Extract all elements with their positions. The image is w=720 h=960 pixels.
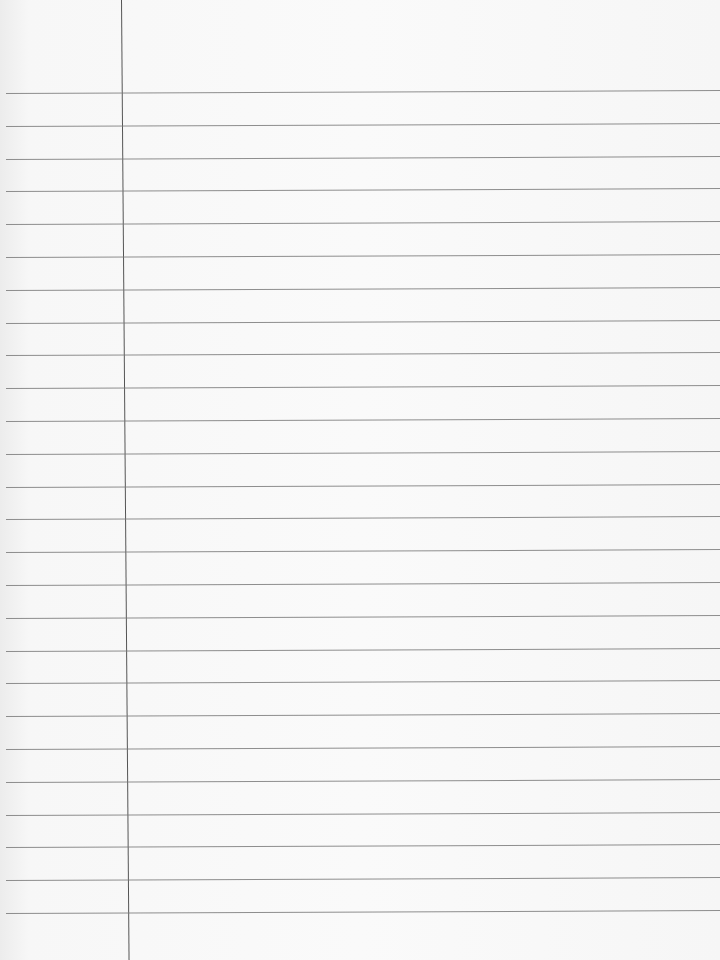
ruled-line bbox=[6, 582, 720, 586]
ruled-line bbox=[6, 156, 720, 160]
ruled-line bbox=[6, 287, 720, 291]
ruled-line bbox=[6, 188, 720, 192]
margin-line bbox=[121, 0, 130, 960]
ruled-line bbox=[6, 779, 720, 783]
ruled-line bbox=[6, 910, 720, 914]
ruled-line bbox=[6, 221, 720, 225]
ruled-line bbox=[6, 90, 720, 94]
ruled-line bbox=[6, 516, 720, 520]
ruled-line bbox=[6, 746, 720, 750]
ruled-line bbox=[6, 123, 720, 127]
ruled-line bbox=[6, 352, 720, 356]
ruled-line bbox=[6, 418, 720, 422]
ruled-line bbox=[6, 713, 720, 717]
ruled-line bbox=[6, 680, 720, 684]
ruled-line bbox=[6, 385, 720, 389]
ruled-line bbox=[6, 484, 720, 488]
ruled-line bbox=[6, 254, 720, 258]
ruled-line bbox=[6, 844, 720, 848]
ruled-line bbox=[6, 877, 720, 881]
ruled-line bbox=[6, 320, 720, 324]
ruled-line bbox=[6, 451, 720, 455]
ruled-line bbox=[6, 812, 720, 816]
ruled-line bbox=[6, 549, 720, 553]
ruled-line bbox=[6, 648, 720, 652]
lined-paper bbox=[0, 0, 720, 960]
ruled-line bbox=[6, 615, 720, 619]
